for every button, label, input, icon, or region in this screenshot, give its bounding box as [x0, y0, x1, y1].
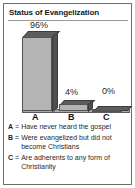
legend-text-a: Have never heard the gospel [21, 122, 130, 132]
bar-category-label-b: B [68, 112, 75, 122]
legend-item-a: A = Have never heard the gospel [8, 122, 130, 132]
legend-key-c: C [8, 153, 15, 163]
plot-area: 96% 4% 0% A B C [4, 21, 131, 119]
bar-category-label-c: C [103, 112, 110, 122]
chart-figure: Status of Evangelization 96% 4% 0% A B C [0, 0, 135, 188]
legend-text-b: Were evangelized but did not become Chri… [21, 133, 130, 152]
legend-item-c: C = Are adherents to any form of Christi… [8, 153, 130, 172]
bar-category-label-a: A [32, 112, 39, 122]
chart-legend: A = Have never heard the gospel B = Were… [8, 122, 130, 173]
bar-value-label-b: 4% [65, 87, 78, 97]
legend-key-a: A [8, 122, 15, 132]
bar-a-front [22, 37, 52, 111]
legend-text-c: Are adherents to any form of Christianit… [21, 153, 130, 172]
bar-value-label-c: 0% [102, 86, 115, 96]
bar-a-side [52, 31, 58, 112]
bar-b-front [59, 104, 88, 111]
bar-value-label-a: 96% [30, 20, 48, 30]
legend-key-b: B [8, 133, 15, 143]
legend-item-b: B = Were evangelized but did not become … [8, 133, 130, 152]
chart-panel: Status of Evangelization 96% 4% 0% A B C [3, 3, 132, 185]
chart-title: Status of Evangelization [9, 8, 99, 17]
